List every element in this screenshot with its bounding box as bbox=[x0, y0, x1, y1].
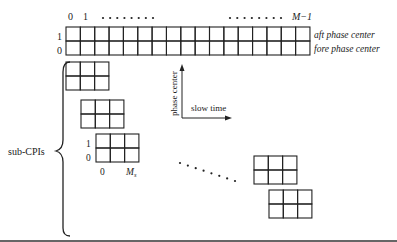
grid-cell bbox=[253, 27, 267, 41]
ellipsis-dot bbox=[179, 162, 181, 164]
ellipsis-dot bbox=[109, 17, 111, 19]
ellipsis-dots-left bbox=[102, 17, 154, 19]
sub-cpi-block-4 bbox=[254, 156, 297, 184]
grid-cell bbox=[238, 27, 252, 41]
ellipsis-dots-right bbox=[229, 17, 282, 19]
grid-cell bbox=[109, 41, 123, 55]
sub-row-label-0: 0 bbox=[86, 153, 91, 163]
ellipsis-dot bbox=[236, 17, 238, 19]
ellipsis-dot bbox=[138, 17, 140, 19]
grid-cell bbox=[224, 27, 238, 41]
grid-cell bbox=[268, 170, 282, 184]
ellipsis-dot bbox=[123, 17, 125, 19]
right-arrow-icon bbox=[225, 116, 232, 121]
grid-cell bbox=[66, 76, 80, 90]
ellipsis-dots-diagonal bbox=[179, 162, 236, 182]
ellipsis-dot bbox=[234, 180, 236, 182]
ellipsis-dot bbox=[145, 17, 147, 19]
grid-cell bbox=[95, 76, 109, 90]
ellipsis-dot bbox=[152, 17, 154, 19]
grid-cell bbox=[181, 41, 195, 55]
main-row-label-1: 1 bbox=[57, 31, 62, 42]
grid-cell bbox=[298, 190, 312, 204]
up-arrow-icon bbox=[180, 64, 185, 71]
grid-cell bbox=[210, 41, 224, 55]
sub-cpi-block-2 bbox=[81, 100, 124, 128]
ellipsis-dot bbox=[243, 17, 245, 19]
main-col-label-first: 0 bbox=[68, 11, 73, 22]
grid-cell bbox=[254, 156, 268, 170]
grid-cell bbox=[80, 62, 94, 76]
vertical-axis-label: phase center bbox=[169, 71, 179, 116]
ellipsis-dot bbox=[102, 17, 104, 19]
grid-cell bbox=[66, 62, 80, 76]
grid-cell bbox=[80, 41, 94, 55]
grid-cell bbox=[283, 190, 297, 204]
grid-cell bbox=[195, 41, 209, 55]
grid-cell bbox=[281, 41, 295, 55]
grid-cell bbox=[152, 27, 166, 41]
grid-cell bbox=[123, 41, 137, 55]
ellipsis-dot bbox=[130, 17, 132, 19]
grid-cell bbox=[267, 41, 281, 55]
main-grid bbox=[66, 27, 310, 55]
grid-cell bbox=[110, 100, 124, 114]
ellipsis-dot bbox=[226, 177, 228, 179]
grid-cell bbox=[95, 100, 109, 114]
grid-cell bbox=[81, 114, 95, 128]
sub-cpi-brace bbox=[56, 62, 70, 236]
ellipsis-dot bbox=[273, 17, 275, 19]
row-name-fore: fore phase center bbox=[314, 44, 380, 54]
main-row-label-0: 0 bbox=[57, 45, 62, 56]
grid-cell bbox=[125, 148, 139, 162]
grid-cell bbox=[298, 204, 312, 218]
sub-cpi-block-1 bbox=[66, 62, 109, 90]
grid-cell bbox=[224, 41, 238, 55]
sub-row-label-1: 1 bbox=[86, 139, 91, 149]
ellipsis-dot bbox=[202, 170, 204, 172]
ellipsis-dot bbox=[116, 17, 118, 19]
grid-cell bbox=[138, 27, 152, 41]
grid-cell bbox=[238, 41, 252, 55]
grid-cell bbox=[210, 27, 224, 41]
ellipsis-dot bbox=[251, 17, 253, 19]
grid-cell bbox=[269, 190, 283, 204]
grid-cell bbox=[66, 27, 80, 41]
grid-cell bbox=[95, 41, 109, 55]
grid-cell bbox=[152, 41, 166, 55]
sub-cpis-label: sub-CPIs bbox=[8, 146, 45, 157]
ellipsis-dot bbox=[258, 17, 260, 19]
grid-cell bbox=[81, 100, 95, 114]
axes-indicator: phase center slow time bbox=[169, 64, 232, 121]
grid-cell bbox=[66, 41, 80, 55]
grid-cell bbox=[95, 27, 109, 41]
grid-cell bbox=[110, 134, 124, 148]
ellipsis-dot bbox=[265, 17, 267, 19]
main-grid-cells bbox=[66, 27, 310, 55]
grid-cell bbox=[95, 114, 109, 128]
ellipsis-dot bbox=[229, 17, 231, 19]
grid-cell bbox=[80, 27, 94, 41]
sub-cpi-blocks bbox=[66, 62, 312, 218]
grid-cell bbox=[268, 156, 282, 170]
ellipsis-dot bbox=[187, 164, 189, 166]
sub-cpi-block-3 bbox=[96, 134, 139, 162]
sub-col-label-last: Ms bbox=[125, 167, 137, 178]
grid-cell bbox=[254, 170, 268, 184]
grid-cell bbox=[138, 41, 152, 55]
sub-col-label-first: 0 bbox=[100, 167, 105, 177]
grid-cell bbox=[267, 27, 281, 41]
ellipsis-dot bbox=[210, 172, 212, 174]
grid-cell bbox=[110, 148, 124, 162]
grid-cell bbox=[80, 76, 94, 90]
grid-cell bbox=[166, 41, 180, 55]
grid-cell bbox=[195, 27, 209, 41]
grid-cell bbox=[283, 156, 297, 170]
horizontal-axis-label: slow time bbox=[191, 103, 226, 113]
grid-cell bbox=[253, 41, 267, 55]
ellipsis-dot bbox=[280, 17, 282, 19]
grid-cell bbox=[283, 170, 297, 184]
ellipsis-dot bbox=[218, 175, 220, 177]
main-col-label-second: 1 bbox=[83, 11, 88, 22]
grid-cell bbox=[269, 204, 283, 218]
